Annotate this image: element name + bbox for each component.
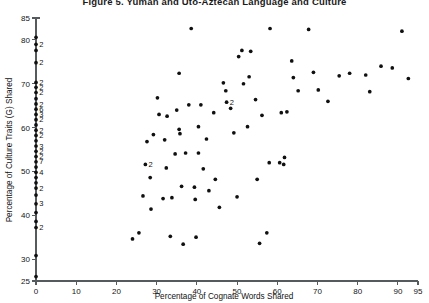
figure-container: Figure 5. Yuman and Uto-Aztecan Language…	[0, 0, 429, 303]
y-tick-label: 30	[21, 255, 30, 264]
x-axis-title: Percentage of Cognate Words Shared	[155, 292, 294, 301]
y-tick-label: 60	[21, 124, 30, 133]
y-tick-label: 50	[21, 167, 30, 176]
point-count-label: 2	[39, 184, 43, 193]
data-point	[199, 103, 203, 107]
data-point	[193, 198, 197, 202]
data-point	[285, 110, 289, 114]
data-point	[246, 125, 250, 129]
data-point	[34, 181, 38, 185]
data-point	[137, 231, 141, 235]
data-point	[34, 35, 38, 39]
data-point	[175, 108, 179, 112]
data-point	[232, 131, 236, 135]
data-point	[34, 123, 38, 127]
data-point	[149, 207, 153, 211]
data-point	[197, 125, 201, 129]
data-point	[152, 133, 156, 137]
data-points-group: 222222632223227423222	[34, 27, 410, 279]
data-point	[337, 74, 341, 78]
data-point	[181, 242, 185, 246]
data-point	[240, 49, 244, 53]
y-axis-title: Percentage of Culture Traits (G) Shared	[5, 77, 14, 222]
data-point	[165, 114, 169, 118]
data-point	[242, 82, 246, 86]
data-point	[168, 234, 172, 238]
data-point	[326, 99, 330, 103]
data-point	[34, 102, 38, 106]
data-point	[34, 81, 38, 85]
data-point	[197, 151, 201, 155]
data-point	[279, 111, 283, 115]
data-point	[131, 237, 135, 241]
data-point	[170, 196, 174, 200]
data-point	[213, 177, 217, 181]
data-point	[400, 29, 404, 33]
data-point	[258, 241, 262, 245]
y-tick-label: 80	[21, 36, 30, 45]
data-point	[34, 211, 38, 215]
y-tick-label: 70	[21, 80, 30, 89]
data-point	[296, 89, 300, 93]
scatter-plot: 0102030405060708090952530405060708085 22…	[0, 0, 429, 303]
data-point	[163, 138, 167, 142]
x-tick-label: 10	[72, 287, 81, 296]
data-point	[255, 177, 259, 181]
y-tick-label: 25	[21, 277, 30, 286]
data-point	[235, 195, 239, 199]
data-point	[267, 161, 271, 165]
data-point	[193, 185, 197, 189]
data-point	[407, 77, 411, 81]
data-point	[205, 137, 209, 141]
x-tick-label: 80	[353, 287, 362, 296]
point-count-label: 2	[39, 223, 43, 232]
data-point	[141, 194, 145, 198]
data-point	[34, 85, 38, 89]
point-count-label: 3	[39, 199, 43, 208]
data-point	[368, 90, 372, 94]
data-point	[237, 55, 241, 59]
data-point	[254, 98, 258, 102]
data-point	[307, 28, 311, 32]
data-point	[207, 189, 211, 193]
y-tick-label: 40	[21, 211, 30, 220]
data-point	[222, 81, 226, 85]
x-tick-label: 95	[414, 287, 423, 296]
data-point	[184, 151, 188, 155]
point-count-label: 2	[39, 88, 43, 97]
data-point	[34, 97, 38, 101]
point-count-label: 4	[39, 168, 43, 177]
data-point	[178, 132, 182, 136]
data-point	[157, 113, 161, 117]
data-point	[34, 254, 38, 258]
data-point	[249, 49, 253, 53]
data-point	[180, 184, 184, 188]
data-point	[379, 64, 383, 68]
data-point	[34, 118, 38, 122]
data-point	[173, 152, 177, 156]
data-point	[224, 89, 228, 93]
data-point	[229, 106, 233, 110]
point-count-label: 2	[39, 115, 43, 124]
data-point	[278, 161, 282, 165]
data-point	[34, 113, 38, 117]
data-point	[189, 27, 193, 31]
x-tick-label: 0	[34, 287, 39, 296]
point-count-label: 2	[39, 40, 43, 49]
data-point	[292, 76, 296, 80]
data-point	[283, 156, 287, 160]
point-count-label: 2	[230, 98, 234, 107]
data-point	[34, 176, 38, 180]
data-point	[34, 49, 38, 53]
x-tick-label: 20	[112, 287, 121, 296]
data-point	[156, 96, 160, 100]
data-point	[34, 91, 38, 95]
data-point	[312, 71, 316, 75]
data-point	[34, 226, 38, 230]
data-point	[34, 134, 38, 138]
data-point	[282, 163, 286, 167]
data-point	[145, 140, 149, 144]
data-point	[260, 113, 264, 117]
data-point	[164, 166, 168, 170]
x-tick-label: 70	[313, 287, 322, 296]
